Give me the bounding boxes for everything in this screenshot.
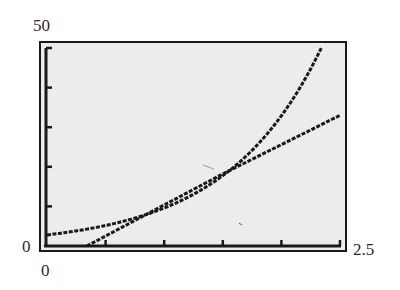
screen-background [40,42,346,251]
graph-screen [0,0,400,290]
